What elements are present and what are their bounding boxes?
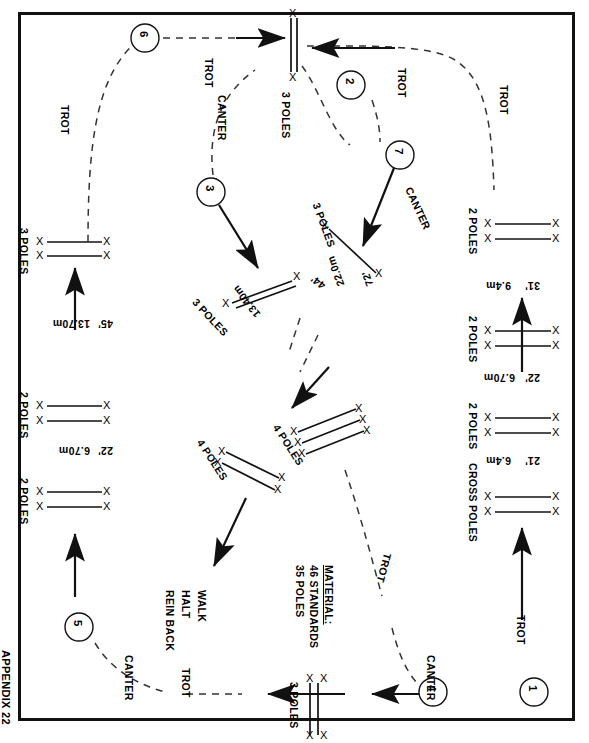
pole-end-x: X [375, 268, 382, 279]
material-poles-count: 35 POLES [294, 565, 306, 618]
jump-label-right-2-poles-mid: 2 POLES [467, 316, 479, 362]
pole-end-x: X [484, 427, 491, 438]
distance-left-45-metric: 13.70m [53, 318, 90, 330]
gait-label-trot-right-bottom: TROT [515, 615, 527, 645]
gait-label-trot-right-top: TROT [498, 85, 510, 115]
pole-end-x: X [484, 233, 491, 244]
distance-left-22-imperial: 22' [98, 445, 113, 457]
jump-label-left-2-poles-lower: 2 POLES [18, 478, 30, 524]
marker-1-number[interactable]: 1 [527, 685, 539, 692]
pole-end-x: X [484, 491, 491, 502]
jump-label-left-2-poles-upper: 2 POLES [18, 392, 30, 438]
pole-end-x: X [274, 484, 281, 495]
pole-end-x: X [484, 412, 491, 423]
marker-5-number[interactable]: 5 [72, 620, 84, 627]
marker-circles-group [65, 24, 548, 706]
pole-end-x: X [552, 427, 559, 438]
pole-end-x: X [484, 506, 491, 517]
pole-end-x: X [320, 673, 327, 684]
material-heading: MATERIAL: [323, 565, 335, 625]
poles-group [47, 18, 551, 735]
pole-end-x: X [36, 400, 43, 411]
distance-right-31-metric: 9.4m [486, 280, 511, 292]
gait-label-trot-upper-left: TROT [203, 58, 215, 88]
jump-label-right-2-poles-low: 2 POLES [467, 403, 479, 449]
pole-end-x: X [552, 325, 559, 336]
pole-end-x: X [36, 236, 43, 247]
distance-right-31-imperial: 31' [525, 280, 540, 292]
distance-left-22-metric: 6.70m [59, 445, 90, 457]
pole-end-x: X [289, 8, 296, 19]
pole-end-x: X [103, 400, 110, 411]
gait-label-rein-back: REIN BACK [164, 590, 176, 651]
gait-label-walk: WALK [196, 590, 208, 622]
pole-end-x: X [484, 325, 491, 336]
gait-label-canter-upper-left: CANTER [216, 95, 228, 141]
distance-right-21-metric: 6.4m [486, 455, 511, 467]
jump-label-right-2-poles-top: 2 POLES [467, 208, 479, 254]
pole-end-x: X [36, 415, 43, 426]
pole-end-x: X [484, 340, 491, 351]
jump-label-top-vertical-3-poles: 3 POLES [280, 92, 292, 138]
gait-label-canter-five: CANTER [123, 655, 135, 701]
pole-end-x: X [484, 218, 491, 229]
pole-end-x: X [103, 486, 110, 497]
pole-end-x: X [552, 340, 559, 351]
pole-end-x: X [293, 271, 300, 282]
distance-right-22-imperial: 22' [525, 372, 540, 384]
marker-6-number[interactable]: 6 [138, 31, 150, 38]
gait-label-canter-four: CANTER [425, 655, 437, 701]
marker-7-number[interactable]: 7 [393, 148, 405, 155]
distance-right-22-metric: 6.70m [484, 372, 515, 384]
jump-label-right-cross-poles: CROSS POLES [467, 463, 479, 542]
pole-end-x: X [289, 72, 296, 83]
marker-2-number[interactable]: 2 [344, 78, 356, 85]
gait-label-halt: HALT [180, 590, 192, 618]
pole-end-x: X [103, 501, 110, 512]
pole-end-x: X [320, 730, 327, 741]
material-standards-count: 46 STANDARDS [308, 565, 320, 648]
jump-label-left-3-poles: 3 POLES [18, 228, 30, 274]
pole-end-x: X [552, 506, 559, 517]
pole-end-x: X [306, 673, 313, 684]
jump-label-bottom-vertical-3-poles: 3 POLES [288, 682, 300, 728]
pole-end-x: X [103, 250, 110, 261]
pole-end-x: X [222, 298, 229, 309]
appendix-label: APPENDIX 22 [0, 650, 12, 725]
pole-end-x: X [552, 218, 559, 229]
pole-end-x: X [306, 730, 313, 741]
gait-label-trot-bottom-left: TROT [180, 668, 192, 698]
pole-end-x: X [552, 491, 559, 502]
marker-3-number[interactable]: 3 [204, 185, 216, 192]
course-diagram-page: 6 2 3 7 5 4 1 X X X X X X X X X X X X X … [0, 0, 589, 743]
pole-end-x: X [552, 412, 559, 423]
pole-end-x: X [36, 486, 43, 497]
gait-label-trot-left-upper: TROT [59, 105, 71, 135]
pole-end-x: X [36, 501, 43, 512]
pole-end-x: X [103, 236, 110, 247]
distance-right-21-imperial: 21' [525, 455, 540, 467]
pole-end-x: X [36, 250, 43, 261]
pole-end-x: X [552, 233, 559, 244]
distance-left-45-imperial: 45' [98, 318, 113, 330]
pole-end-x: X [278, 472, 285, 483]
pole-end-x: X [103, 415, 110, 426]
pole-end-x: X [363, 425, 370, 436]
gait-label-trot-upper-centre: TROT [396, 68, 408, 98]
